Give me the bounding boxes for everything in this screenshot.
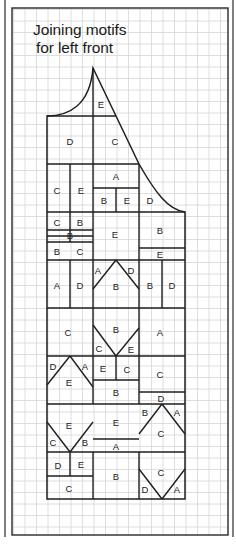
motif-label: C [50, 437, 57, 448]
motif-label: A [174, 407, 181, 418]
motif-label: C [96, 343, 103, 354]
motif-label: B [147, 280, 153, 291]
motif-layout-diagram: EDCCEABEDCBBEBBCEADBADBDCBCEADAEECCBDBAE… [0, 0, 236, 547]
motif-label: B [113, 471, 119, 482]
motif-label: C [54, 217, 61, 228]
motif-label: E [98, 99, 104, 110]
motif-label: C [77, 246, 84, 257]
motif-label: A [95, 265, 102, 276]
motif-label: E [157, 249, 163, 260]
motif-label: B [157, 225, 163, 236]
motif-label: B [54, 246, 60, 257]
motif-label: C [54, 185, 61, 196]
motif-label: D [55, 460, 62, 471]
diagram-canvas: EDCCEABEDCBBEBBCEADBADBDCBCEADAEECCBDBAE… [0, 0, 236, 547]
motif-label: D [50, 361, 57, 372]
motif-label: B [142, 407, 148, 418]
page-frame [5, 0, 233, 537]
motif-label: E [124, 195, 130, 206]
motif-label: D [147, 195, 154, 206]
diagram-title-line-1: Joining motifs [33, 22, 126, 38]
motif-label: A [82, 361, 89, 372]
motif-label: A [113, 171, 120, 182]
motif-label: C [112, 136, 119, 147]
motif-label: E [78, 459, 84, 470]
motif-label: E [78, 185, 84, 196]
motif-label: B [82, 437, 88, 448]
motif-label: E [100, 363, 106, 374]
motif-label: D [158, 393, 165, 404]
motif-label: E [113, 417, 119, 428]
motif-label: B [113, 281, 119, 292]
motif-label: B [113, 324, 119, 335]
motif-label: C [157, 369, 164, 380]
motif-label: B [67, 230, 73, 241]
motif-label: E [66, 420, 72, 431]
motif-label: A [54, 280, 61, 291]
inner-frame [12, 8, 228, 535]
motif-label: A [174, 484, 181, 495]
motif-label: E [66, 377, 72, 388]
motif-label: D [128, 265, 135, 276]
motif-label: D [77, 280, 84, 291]
motif-label: E [128, 344, 134, 355]
motif-label: A [157, 327, 164, 338]
motif-label: B [77, 217, 83, 228]
motif-label: C [66, 483, 73, 494]
motif-label: C [158, 467, 165, 478]
graph-paper-grid [12, 8, 228, 535]
motif-label: E [112, 229, 118, 240]
motif-label: D [67, 136, 74, 147]
motif-label: B [101, 195, 107, 206]
motif-label: D [142, 484, 149, 495]
motif-label: C [158, 428, 165, 439]
motif-label: D [169, 280, 176, 291]
motif-label: C [65, 327, 72, 338]
motif-label: C [124, 364, 131, 375]
diagram-title-line-2: for left front [36, 40, 113, 56]
motif-label: A [113, 441, 120, 452]
motif-label: B [113, 387, 119, 398]
